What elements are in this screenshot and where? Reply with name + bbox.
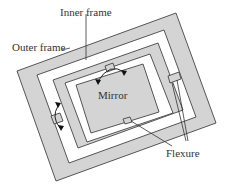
outer-frame-label: Outer frame (12, 42, 65, 53)
flexure-label: Flexure (166, 148, 200, 159)
inner-frame-label: Inner frame (60, 7, 112, 18)
mirror-label: Mirror (98, 90, 127, 101)
mems-mirror-diagram: Inner frame Outer frame Mirror Flexure (0, 0, 230, 192)
